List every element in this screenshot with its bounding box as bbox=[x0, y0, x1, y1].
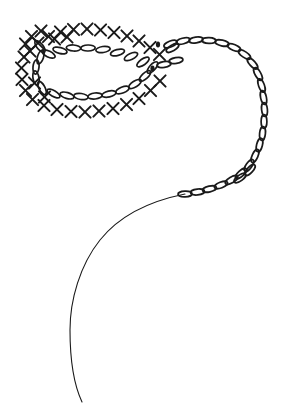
crochet-chart-canvas: Crochet Chart Diagram bbox=[0, 0, 299, 412]
crochet-chart-svg bbox=[0, 0, 299, 412]
slip-stitch-dot bbox=[156, 42, 160, 48]
slip-stitch-dot bbox=[150, 66, 154, 72]
